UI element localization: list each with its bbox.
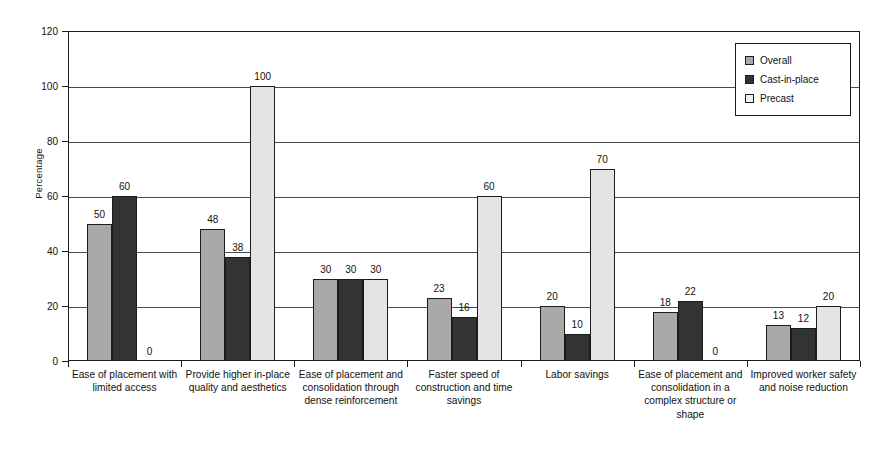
bar-value-label: 0 [147, 346, 153, 357]
bar [452, 317, 477, 361]
gridline [69, 142, 859, 143]
x-axis-tick-mark [521, 361, 522, 367]
x-axis-tick-mark [68, 361, 69, 367]
bar-value-label: 23 [433, 283, 444, 294]
x-axis-category-label: Faster speed of construction and time sa… [407, 368, 520, 408]
legend-swatch-cast-in-place-icon [745, 75, 754, 84]
bar-value-label: 22 [685, 286, 696, 297]
bar-value-label: 18 [660, 297, 671, 308]
x-axis-category-label: Provide higher in-place quality and aest… [181, 368, 294, 394]
x-axis-tick-mark [407, 361, 408, 367]
bar [112, 196, 137, 361]
x-axis-tick-mark [294, 361, 295, 367]
bar [87, 224, 112, 362]
x-axis-category-label: Labor savings [521, 368, 634, 381]
gridline [69, 252, 859, 253]
y-axis-tick-label: 120 [18, 26, 58, 37]
bar [200, 229, 225, 361]
y-axis-tick-label: 60 [18, 191, 58, 202]
y-axis-tick-mark [62, 306, 68, 307]
bar-chart: Percentage 020406080100120 5060048381003… [0, 0, 892, 452]
y-axis-tick-mark [62, 141, 68, 142]
y-axis-tick-label: 20 [18, 301, 58, 312]
y-axis-tick-mark [62, 31, 68, 32]
legend-label-overall: Overall [760, 55, 792, 66]
bar-value-label: 0 [713, 346, 719, 357]
bar [678, 301, 703, 362]
bar-value-label: 16 [458, 302, 469, 313]
x-axis-tick-mark [181, 361, 182, 367]
y-axis-tick-mark [62, 86, 68, 87]
bar-value-label: 60 [119, 181, 130, 192]
bar-value-label: 30 [345, 264, 356, 275]
legend: Overall Cast-in-place Precast [735, 43, 851, 116]
x-axis-tick-mark [747, 361, 748, 367]
gridline [69, 197, 859, 198]
bar-value-label: 12 [798, 313, 809, 324]
legend-item-precast[interactable]: Precast [745, 89, 842, 108]
bar-value-label: 70 [597, 154, 608, 165]
bar-value-label: 30 [320, 264, 331, 275]
bar [816, 306, 841, 361]
bar-value-label: 20 [547, 291, 558, 302]
x-axis-category-label: Improved worker safety and noise reducti… [747, 368, 860, 394]
legend-label-precast: Precast [760, 93, 794, 104]
y-axis-title: Percentage [33, 114, 44, 234]
x-axis-tick-mark [634, 361, 635, 367]
bar-value-label: 38 [232, 242, 243, 253]
bar [225, 257, 250, 362]
y-axis-tick-label: 40 [18, 246, 58, 257]
y-axis-tick-label: 80 [18, 136, 58, 147]
x-axis-category-label: Ease of placement with limited access [68, 368, 181, 394]
bar-value-label: 50 [94, 209, 105, 220]
legend-swatch-overall-icon [745, 56, 754, 65]
bar [766, 325, 791, 361]
legend-item-cast-in-place[interactable]: Cast-in-place [745, 70, 842, 89]
y-axis-tick-mark [62, 251, 68, 252]
bar-value-label: 60 [483, 181, 494, 192]
bar [540, 306, 565, 361]
bar [338, 279, 363, 362]
bar [250, 86, 275, 361]
bar-value-label: 10 [572, 319, 583, 330]
legend-label-cast-in-place: Cast-in-place [760, 74, 819, 85]
legend-item-overall[interactable]: Overall [745, 51, 842, 70]
bar [313, 279, 338, 362]
bar-value-label: 30 [370, 264, 381, 275]
y-axis-tick-mark [62, 196, 68, 197]
x-axis-tick-mark [860, 361, 861, 367]
bar [427, 298, 452, 361]
bar-value-label: 48 [207, 214, 218, 225]
bar [791, 328, 816, 361]
bar [477, 196, 502, 361]
x-axis-category-label: Ease of placement and consolidation in a… [634, 368, 747, 421]
bar [363, 279, 388, 362]
bar-value-label: 13 [773, 310, 784, 321]
bar [653, 312, 678, 362]
legend-swatch-precast-icon [745, 94, 754, 103]
y-axis-tick-label: 0 [18, 356, 58, 367]
bar-value-label: 20 [823, 291, 834, 302]
bar [590, 169, 615, 362]
bar [565, 334, 590, 362]
x-axis-category-label: Ease of placement and consolidation thro… [294, 368, 407, 408]
y-axis-tick-label: 100 [18, 81, 58, 92]
bar-value-label: 100 [254, 71, 271, 82]
